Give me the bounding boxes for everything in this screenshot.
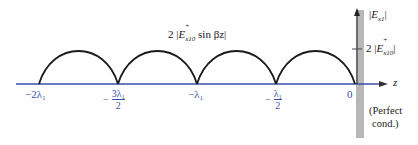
tick-zero: 0 bbox=[347, 89, 353, 100]
tick-minus-lambda: −λ₁ bbox=[188, 89, 203, 100]
z-label-text: z bbox=[393, 76, 397, 88]
frac-denominator: 2 bbox=[274, 99, 282, 111]
tick-minus-2-lambda: −2λ₁ bbox=[25, 89, 46, 100]
curve-label-sup: + bbox=[185, 23, 189, 30]
standing-wave-diagram bbox=[0, 0, 418, 145]
y-label-symbol: E bbox=[371, 8, 378, 20]
curve-label: 2 |E+x10 sin βz| bbox=[168, 29, 226, 43]
curve-label-prefix: 2 | bbox=[168, 28, 178, 40]
tick-minus-3-lambda-over-2: − 3λ₁ 2 bbox=[103, 88, 125, 111]
tick-label-sub: x10 bbox=[383, 49, 393, 57]
sine-magnitude-curve bbox=[39, 51, 355, 84]
conductor-label: (Perfect cond.) bbox=[369, 104, 402, 130]
magnitude-axis-label: |Ex1| bbox=[369, 9, 387, 23]
conductor-label-line1: (Perfect bbox=[369, 104, 402, 117]
y-label-suffix: | bbox=[385, 8, 387, 20]
curve-label-sub: x10 bbox=[185, 35, 195, 43]
tick-label-sup: + bbox=[383, 37, 387, 44]
tick-minus-lambda-over-2: − λ₁ 2 bbox=[265, 88, 282, 111]
frac-minus: − bbox=[103, 94, 109, 105]
frac-minus: − bbox=[265, 94, 271, 105]
peak-tick-label: 2 |E+x10| bbox=[366, 43, 396, 57]
frac-denominator: 2 bbox=[112, 99, 125, 111]
curve-label-suffix: sin βz| bbox=[195, 28, 226, 40]
z-axis-label: z bbox=[393, 77, 397, 88]
conductor-label-line2: cond.) bbox=[369, 117, 402, 130]
frac-numerator: 3λ₁ bbox=[112, 88, 125, 99]
y-label-sub: x1 bbox=[378, 15, 385, 23]
z-axis-arrow-icon bbox=[379, 81, 388, 87]
tick-label-suffix: | bbox=[393, 42, 395, 54]
frac-numerator: λ₁ bbox=[274, 88, 282, 99]
tick-label-prefix: 2 | bbox=[366, 42, 376, 54]
